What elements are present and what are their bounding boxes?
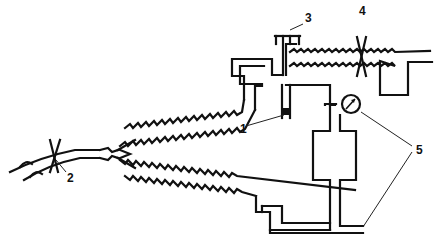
apparatus-diagram bbox=[0, 0, 435, 240]
clamp-4-icon bbox=[357, 37, 366, 76]
label-4: 4 bbox=[359, 5, 366, 17]
reservoir-column bbox=[256, 105, 412, 233]
label-5: 5 bbox=[416, 144, 423, 156]
upper-corrugated-tubes bbox=[120, 100, 255, 146]
diagram-canvas: 1 2 3 4 5 bbox=[0, 0, 435, 240]
lower-corrugated-tubes bbox=[120, 160, 355, 196]
label-2: 2 bbox=[67, 172, 74, 184]
label-1: 1 bbox=[240, 123, 247, 135]
label-3: 3 bbox=[305, 12, 312, 24]
inlet-tube bbox=[10, 148, 118, 180]
sensor-1-icon bbox=[246, 108, 290, 126]
pressure-gauge-icon bbox=[325, 95, 412, 146]
